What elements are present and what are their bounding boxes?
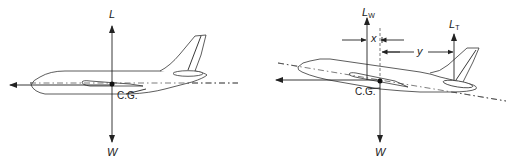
aircraft-horizontal-stabilizer — [173, 71, 203, 77]
figure-level-flight: L W C.G. — [10, 8, 238, 158]
weight-label: W — [107, 146, 119, 158]
center-of-gravity-marker-pitched — [378, 79, 383, 84]
dimension-y-label: y — [416, 45, 424, 57]
dimension-x-label: x — [370, 32, 377, 44]
cg-label: C.G. — [117, 90, 138, 101]
cg-label-pitched: C.G. — [355, 86, 376, 97]
lift-label: L — [109, 8, 115, 20]
tail-lift-label: LT — [449, 18, 460, 31]
diagram-canvas: L W C.G. — [0, 0, 512, 165]
weight-label-pitched: W — [375, 146, 387, 158]
figure-pitched-flight: LW LT W C.G. x y — [276, 6, 506, 158]
wing-lift-label: LW — [362, 6, 375, 19]
center-of-gravity-marker — [110, 82, 115, 87]
